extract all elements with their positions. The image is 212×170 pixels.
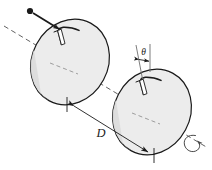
incoming-particle-group xyxy=(27,8,59,29)
separation-label: D xyxy=(95,126,105,140)
figure-container: D θ xyxy=(0,0,212,170)
incoming-particle-dot xyxy=(27,8,33,14)
slotted-disk-near xyxy=(16,5,124,118)
angle-arc-arrow xyxy=(139,60,149,62)
incoming-particle-arrow xyxy=(33,13,59,29)
slotted-disk-far xyxy=(98,55,206,168)
rotation-direction-arrow xyxy=(184,135,199,151)
angle-label: θ xyxy=(141,47,146,57)
slotted-disks-diagram: D θ xyxy=(0,0,212,170)
